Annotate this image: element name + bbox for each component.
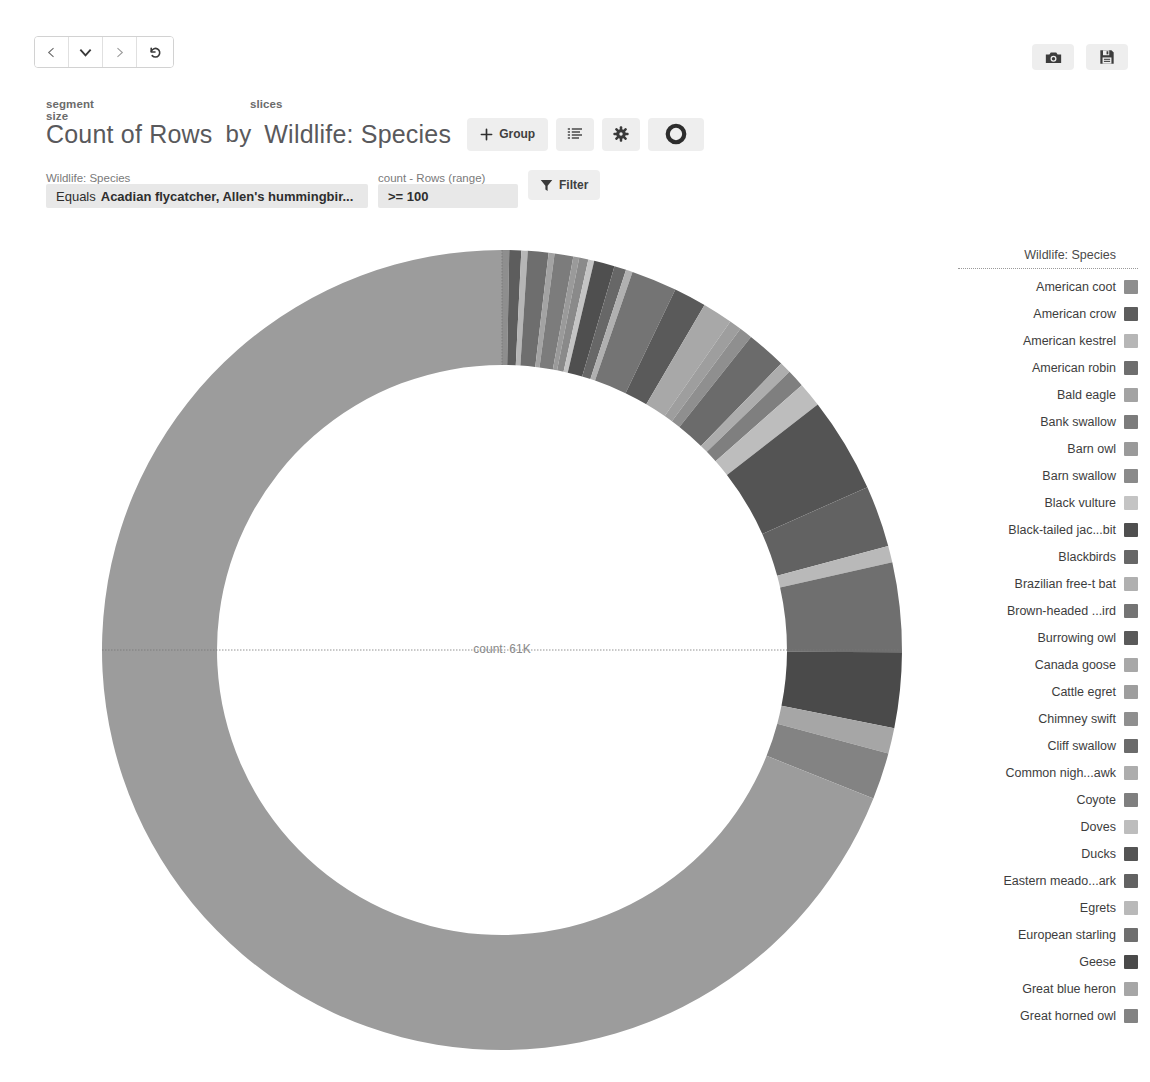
legend-item[interactable]: Doves xyxy=(958,813,1138,840)
legend-item-label: Cattle egret xyxy=(1051,685,1116,699)
legend-swatch xyxy=(1124,955,1138,969)
legend-item-label: American coot xyxy=(1036,280,1116,294)
legend-item-label: Blackbirds xyxy=(1058,550,1116,564)
legend-item-label: Ducks xyxy=(1081,847,1116,861)
legend-item[interactable]: European starling xyxy=(958,921,1138,948)
legend-swatch xyxy=(1124,307,1138,321)
legend-item-label: Cliff swallow xyxy=(1047,739,1116,753)
legend-swatch xyxy=(1124,982,1138,996)
legend-item-label: Bank swallow xyxy=(1040,415,1116,429)
legend-items: American cootAmerican crowAmerican kestr… xyxy=(958,273,1138,1029)
legend-item-label: European starling xyxy=(1018,928,1116,942)
legend-item[interactable]: American crow xyxy=(958,300,1138,327)
legend-item[interactable]: Great blue heron xyxy=(958,975,1138,1002)
legend-item[interactable]: Eastern meado...ark xyxy=(958,867,1138,894)
legend-swatch xyxy=(1124,550,1138,564)
legend-item-label: Burrowing owl xyxy=(1037,631,1116,645)
legend-item-label: Common nigh...awk xyxy=(1006,766,1116,780)
legend-item[interactable]: Cattle egret xyxy=(958,678,1138,705)
legend-item[interactable]: Burrowing owl xyxy=(958,624,1138,651)
legend-item-label: Brown-headed ...ird xyxy=(1007,604,1116,618)
legend-item-label: Barn owl xyxy=(1067,442,1116,456)
legend-item[interactable]: Great horned owl xyxy=(958,1002,1138,1029)
legend-item-label: Bald eagle xyxy=(1057,388,1116,402)
legend: Wildlife: Species American cootAmerican … xyxy=(958,248,1138,1029)
legend-swatch xyxy=(1124,901,1138,915)
legend-item-label: Eastern meado...ark xyxy=(1003,874,1116,888)
legend-item-label: Chimney swift xyxy=(1038,712,1116,726)
legend-divider xyxy=(958,268,1138,269)
legend-swatch xyxy=(1124,928,1138,942)
legend-swatch xyxy=(1124,847,1138,861)
legend-item-label: Black vulture xyxy=(1044,496,1116,510)
legend-swatch xyxy=(1124,523,1138,537)
legend-item[interactable]: Brown-headed ...ird xyxy=(958,597,1138,624)
legend-swatch xyxy=(1124,820,1138,834)
legend-item[interactable]: Bald eagle xyxy=(958,381,1138,408)
legend-item[interactable]: Barn owl xyxy=(958,435,1138,462)
legend-swatch xyxy=(1124,874,1138,888)
legend-item[interactable]: Geese xyxy=(958,948,1138,975)
legend-swatch xyxy=(1124,1009,1138,1023)
legend-item-label: American crow xyxy=(1033,307,1116,321)
legend-swatch xyxy=(1124,334,1138,348)
legend-swatch xyxy=(1124,496,1138,510)
legend-item[interactable]: Chimney swift xyxy=(958,705,1138,732)
legend-swatch xyxy=(1124,388,1138,402)
legend-item-label: Black-tailed jac...bit xyxy=(1008,523,1116,537)
legend-item[interactable]: Black vulture xyxy=(958,489,1138,516)
legend-item-label: American robin xyxy=(1032,361,1116,375)
legend-swatch xyxy=(1124,577,1138,591)
legend-item[interactable]: Ducks xyxy=(958,840,1138,867)
legend-swatch xyxy=(1124,685,1138,699)
legend-item-label: Barn swallow xyxy=(1042,469,1116,483)
legend-swatch xyxy=(1124,361,1138,375)
legend-item-label: Geese xyxy=(1079,955,1116,969)
legend-item-label: Canada goose xyxy=(1035,658,1116,672)
legend-item[interactable]: American kestrel xyxy=(958,327,1138,354)
legend-item[interactable]: Egrets xyxy=(958,894,1138,921)
legend-item[interactable]: Canada goose xyxy=(958,651,1138,678)
legend-swatch xyxy=(1124,793,1138,807)
legend-swatch xyxy=(1124,631,1138,645)
legend-item-label: Brazilian free-t bat xyxy=(1015,577,1116,591)
legend-swatch xyxy=(1124,712,1138,726)
legend-item-label: Great horned owl xyxy=(1020,1009,1116,1023)
legend-item[interactable]: Cliff swallow xyxy=(958,732,1138,759)
legend-item-label: American kestrel xyxy=(1023,334,1116,348)
legend-swatch xyxy=(1124,739,1138,753)
legend-item[interactable]: American robin xyxy=(958,354,1138,381)
legend-swatch xyxy=(1124,658,1138,672)
legend-item[interactable]: Coyote xyxy=(958,786,1138,813)
legend-swatch xyxy=(1124,280,1138,294)
legend-item[interactable]: American coot xyxy=(958,273,1138,300)
legend-swatch xyxy=(1124,766,1138,780)
legend-swatch xyxy=(1124,469,1138,483)
legend-swatch xyxy=(1124,604,1138,618)
legend-item[interactable]: Black-tailed jac...bit xyxy=(958,516,1138,543)
legend-swatch xyxy=(1124,442,1138,456)
legend-item[interactable]: Bank swallow xyxy=(958,408,1138,435)
legend-item-label: Coyote xyxy=(1076,793,1116,807)
legend-item[interactable]: Common nigh...awk xyxy=(958,759,1138,786)
legend-item-label: Doves xyxy=(1081,820,1116,834)
legend-item[interactable]: Barn swallow xyxy=(958,462,1138,489)
legend-item-label: Egrets xyxy=(1080,901,1116,915)
legend-title: Wildlife: Species xyxy=(958,248,1138,268)
legend-item[interactable]: Blackbirds xyxy=(958,543,1138,570)
legend-item-label: Great blue heron xyxy=(1022,982,1116,996)
legend-swatch xyxy=(1124,415,1138,429)
legend-item[interactable]: Brazilian free-t bat xyxy=(958,570,1138,597)
